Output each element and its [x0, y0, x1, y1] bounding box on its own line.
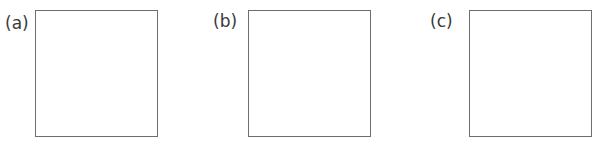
panel-b-label: (b) [213, 11, 237, 31]
panel-c-box [469, 10, 592, 137]
panel-c-label: (c) [430, 11, 453, 31]
panel-a-box [35, 10, 158, 137]
panel-a-label: (a) [5, 13, 29, 33]
panel-b-box [248, 10, 371, 137]
